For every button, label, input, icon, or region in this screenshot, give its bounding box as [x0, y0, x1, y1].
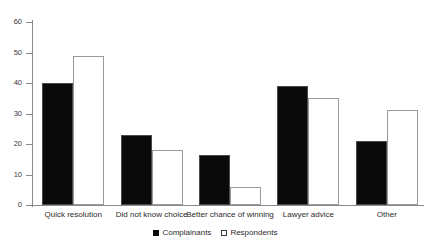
bar-respondents	[308, 98, 339, 205]
y-axis-tick-label: 50	[2, 49, 22, 57]
x-axis-category-label: Lawyer advice	[283, 210, 334, 220]
bar-group	[121, 22, 183, 205]
y-axis-tick-label: 60	[2, 18, 22, 26]
y-axis-tick-label: 30	[2, 110, 22, 118]
legend-label: Complainants	[162, 228, 211, 238]
bar-respondents	[230, 187, 261, 205]
plot-area	[32, 22, 424, 205]
y-axis-tick-label: 10	[2, 171, 22, 179]
bar-respondents	[152, 150, 183, 205]
bar-chart: 0102030405060 Quick resolutionDid not kn…	[0, 0, 431, 247]
x-axis-category-label: Better chance of winning	[186, 210, 274, 220]
x-axis-line	[32, 205, 424, 206]
x-axis-category-label: Did not know choice	[116, 210, 188, 220]
y-axis-tick-label: 0	[2, 201, 22, 209]
bar-complainants	[42, 83, 73, 205]
y-axis-tick	[26, 205, 32, 206]
hollow-square-icon	[221, 230, 227, 236]
x-axis-category-label: Other	[377, 210, 397, 220]
bar-complainants	[277, 86, 308, 205]
legend-entry: Complainants	[153, 228, 211, 238]
y-axis-tick-label: 20	[2, 140, 22, 148]
bar-complainants	[121, 135, 152, 205]
bar-complainants	[356, 141, 387, 205]
chart-legend: ComplainantsRespondents	[0, 228, 431, 238]
filled-square-icon	[153, 230, 159, 236]
bar-respondents	[73, 56, 104, 205]
bar-respondents	[387, 110, 418, 205]
bar-group	[199, 22, 261, 205]
x-axis-category-label: Quick resolution	[45, 210, 102, 220]
legend-entry: Respondents	[221, 228, 277, 238]
bar-group	[356, 22, 418, 205]
bar-group	[42, 22, 104, 205]
y-axis-tick-label: 40	[2, 79, 22, 87]
legend-label: Respondents	[230, 228, 277, 238]
bar-group	[277, 22, 339, 205]
bar-complainants	[199, 155, 230, 205]
